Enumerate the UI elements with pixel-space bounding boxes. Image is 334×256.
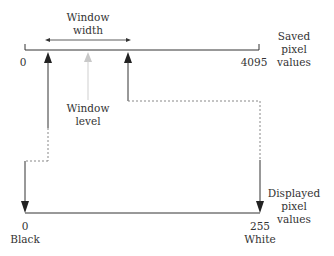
window-level-arrow-icon <box>84 52 92 100</box>
display-min-value: 0 <box>22 220 29 232</box>
saved-values-axis <box>25 44 259 50</box>
saved-caption-line3: values <box>276 56 311 68</box>
window-width-arrow-icon <box>45 38 131 42</box>
saved-min-label: 0 <box>20 56 27 68</box>
windowing-diagram: 0 4095 Saved pixel values Window width W… <box>0 0 334 256</box>
display-max-name: White <box>244 233 275 245</box>
upper-bound-arrow-icon <box>124 52 264 213</box>
saved-caption-line2: pixel <box>281 43 307 55</box>
displayed-caption-line1: Displayed <box>268 187 321 199</box>
window-level-label-line1: Window <box>67 102 110 114</box>
saved-max-label: 4095 <box>241 56 268 68</box>
display-max-value: 255 <box>250 220 270 232</box>
displayed-caption-line3: values <box>276 213 311 225</box>
window-width-label-line2: width <box>73 24 103 36</box>
displayed-caption-line2: pixel <box>281 200 307 212</box>
window-width-label-line1: Window <box>67 11 110 23</box>
display-min-name: Black <box>10 233 40 245</box>
lower-bound-arrow-icon <box>21 52 52 213</box>
window-level-label-line2: level <box>75 115 101 127</box>
saved-caption-line1: Saved <box>278 30 311 42</box>
